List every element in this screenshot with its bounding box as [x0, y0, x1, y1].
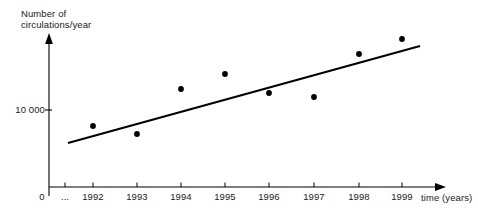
x-axis-label-1992: 1992: [73, 191, 113, 202]
data-point-1994: [178, 86, 184, 92]
x-axis-title: time (years): [421, 192, 472, 203]
y-axis-tick-label-10000: 10 000: [11, 104, 45, 115]
data-point-1999: [399, 36, 405, 42]
plot-area: [0, 0, 478, 216]
data-points: [90, 36, 405, 137]
data-point-1993: [134, 131, 140, 137]
x-axis-label-1999: 1999: [382, 191, 422, 202]
data-point-1998: [356, 51, 362, 57]
data-point-1997: [311, 94, 317, 100]
data-point-1996: [266, 90, 272, 96]
x-axis-label-1996: 1996: [249, 191, 289, 202]
data-point-1995: [222, 71, 228, 77]
x-axis-label-1998: 1998: [339, 191, 379, 202]
trend-line: [68, 46, 420, 143]
scatter-chart: Number ofcirculations/year: [0, 0, 478, 216]
x-axis-label-1997: 1997: [294, 191, 334, 202]
x-axis-arrowhead: [435, 183, 446, 191]
x-axis-label-1993: 1993: [117, 191, 157, 202]
y-axis-arrowhead: [45, 33, 53, 44]
x-axis-label-1994: 1994: [161, 191, 201, 202]
x-axis-label-1995: 1995: [205, 191, 245, 202]
x-axis-ticks: [65, 183, 402, 188]
data-point-1992: [90, 123, 96, 129]
